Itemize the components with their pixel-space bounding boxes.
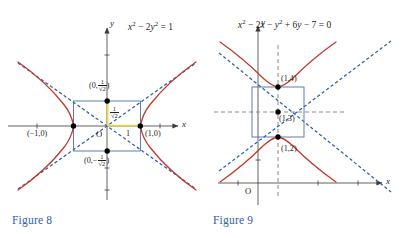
fig9-label-vertex-bottom: (1,2) <box>281 144 297 153</box>
figure-8-graphic <box>8 28 196 200</box>
figure-8-caption: Figure 8 <box>12 214 52 226</box>
fig8-covertex-top-prefix: (0, <box>89 81 98 90</box>
fig8-y-axis-label: y <box>110 18 114 28</box>
fig8-label-vertex-left: (−1,0) <box>27 129 47 138</box>
fig8-label-vertex-right: (1,0) <box>145 129 161 138</box>
fig9-asymptote-negative <box>219 53 391 192</box>
fig8-axes <box>8 28 178 200</box>
fig8-covertex-bottom-prefix: (0,− <box>84 156 98 165</box>
fig9-point-vertex-bottom <box>275 134 280 139</box>
fig8-covertex-top-fraction: 1√2 <box>98 79 107 93</box>
figure-9-graphic <box>214 26 391 205</box>
fig8-label-side-length: 1√2 <box>110 106 119 120</box>
fig8-label-covertex-bottom: (0,−1√2) <box>84 154 109 168</box>
fig9-label-center: (1,3) <box>279 114 295 123</box>
fig8-label-unit-x: 1 <box>126 129 130 138</box>
fig8-label-origin: O <box>96 129 102 139</box>
fig8-point-covertex-top <box>105 98 110 103</box>
fig9-point-vertex-top <box>275 84 280 89</box>
fig8-label-covertex-top: (0,1√2) <box>89 79 110 93</box>
fig8-covertex-bottom-suffix: ) <box>106 156 109 165</box>
fig9-axes <box>218 26 382 205</box>
fig8-point-vertex-right <box>138 123 143 128</box>
fig9-x-axis-label: x <box>386 176 390 186</box>
fig8-covertex-bottom-fraction: 1√2 <box>98 154 107 168</box>
figure-9-caption: Figure 9 <box>213 214 253 226</box>
fig9-equation: x2 − 2x − y2 + 6y − 7 = 0 <box>238 20 331 30</box>
figure-canvas <box>0 0 403 238</box>
fig9-label-vertex-top: (1,4) <box>281 74 297 83</box>
fig9-ticks <box>238 160 358 186</box>
fig9-y-axis-label: y <box>261 17 265 27</box>
fig8-point-vertex-left <box>71 123 76 128</box>
fig9-asymptotes <box>219 41 391 192</box>
fig8-side-fraction: 1√2 <box>110 106 119 120</box>
fig8-equation: x2 − 2y2 = 1 <box>128 22 173 32</box>
fig8-x-axis-label: x <box>182 119 186 129</box>
fig9-label-origin: O <box>245 186 251 196</box>
fig8-covertex-top-suffix: ) <box>107 81 110 90</box>
